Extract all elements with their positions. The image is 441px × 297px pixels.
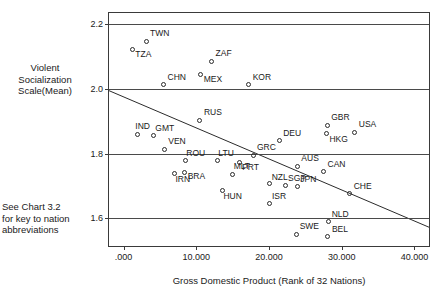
- data-point-label: GBR: [331, 113, 349, 122]
- data-point[interactable]: [144, 39, 149, 44]
- data-point-label: MLT: [234, 162, 250, 171]
- y-gridline: [109, 218, 429, 219]
- data-point[interactable]: [295, 164, 300, 169]
- x-tick-label: 10.000: [183, 253, 211, 262]
- data-point-label: RUS: [204, 108, 222, 117]
- y-tick-mark: [105, 154, 109, 155]
- data-point[interactable]: [295, 184, 300, 189]
- x-tick-label: 20.000: [255, 253, 283, 262]
- data-point-label: NZL: [272, 173, 288, 182]
- y-tick-label: 1.8: [90, 149, 103, 158]
- data-point-label: NLD: [332, 210, 349, 219]
- x-tick-label: 40.000: [401, 253, 429, 262]
- data-point-label: KOR: [253, 73, 271, 82]
- data-point-label: CHE: [354, 182, 372, 191]
- data-point-label: ZAF: [216, 49, 232, 58]
- y-gridline: [109, 89, 429, 90]
- data-point[interactable]: [251, 153, 256, 158]
- data-point[interactable]: [135, 132, 140, 137]
- data-point-label: USA: [359, 120, 376, 129]
- data-point-label: ROU: [186, 149, 205, 158]
- x-axis-title: Gross Domestic Product (Rank of 32 Natio…: [108, 275, 430, 286]
- data-point-label: TZA: [135, 50, 151, 59]
- data-point-label: VEN: [168, 137, 185, 146]
- data-point[interactable]: [325, 123, 330, 128]
- y-tick-mark: [105, 218, 109, 219]
- y-tick-mark: [105, 24, 109, 25]
- data-point-label: JPN: [300, 175, 316, 184]
- x-tick-label: .000: [115, 253, 133, 262]
- data-point-label: SWE: [300, 222, 319, 231]
- data-point[interactable]: [162, 147, 167, 152]
- y-gridline: [109, 24, 429, 25]
- y-axis-title: Violent Socialization Scale(Mean): [2, 62, 88, 97]
- x-tick-label: 30.000: [328, 253, 356, 262]
- data-point-label: GMT: [155, 124, 174, 133]
- data-point[interactable]: [294, 232, 299, 237]
- x-tick-mark: [196, 246, 197, 250]
- data-point[interactable]: [198, 72, 203, 77]
- x-tick-mark: [269, 246, 270, 250]
- data-point-label: CAN: [328, 160, 346, 169]
- chart-note: See Chart 3.2 for key to nation abbrevia…: [2, 201, 94, 236]
- y-tick-mark: [105, 89, 109, 90]
- y-gridline: [109, 154, 429, 155]
- data-point[interactable]: [283, 183, 288, 188]
- data-point[interactable]: [209, 59, 214, 64]
- x-tick-mark: [124, 246, 125, 250]
- data-point-label: BEL: [332, 225, 348, 234]
- data-point-label: DEU: [283, 129, 301, 138]
- data-point-label: IND: [135, 122, 150, 131]
- x-tick-mark: [414, 246, 415, 250]
- y-tick-label: 1.6: [90, 214, 103, 223]
- data-point-label: MEX: [204, 75, 222, 84]
- plot-area: 2.22.01.81.6.00010.00020.00030.00040.000…: [108, 12, 430, 247]
- data-point-label: CHN: [168, 73, 186, 82]
- data-point-label: GRC: [257, 143, 276, 152]
- x-tick-mark: [342, 246, 343, 250]
- data-point-label: LTU: [218, 149, 233, 158]
- data-point-label: HUN: [223, 192, 241, 201]
- y-tick-label: 2.0: [90, 85, 103, 94]
- data-point[interactable]: [130, 47, 135, 52]
- chart-container: Violent Socialization Scale(Mean) See Ch…: [0, 0, 441, 297]
- data-point-label: TWN: [150, 29, 169, 38]
- data-point-label: BRA: [188, 172, 205, 181]
- data-point-label: HKG: [329, 135, 347, 144]
- data-point-label: AUS: [301, 154, 318, 163]
- y-tick-label: 2.2: [90, 20, 103, 29]
- data-point-label: ISR: [272, 192, 286, 201]
